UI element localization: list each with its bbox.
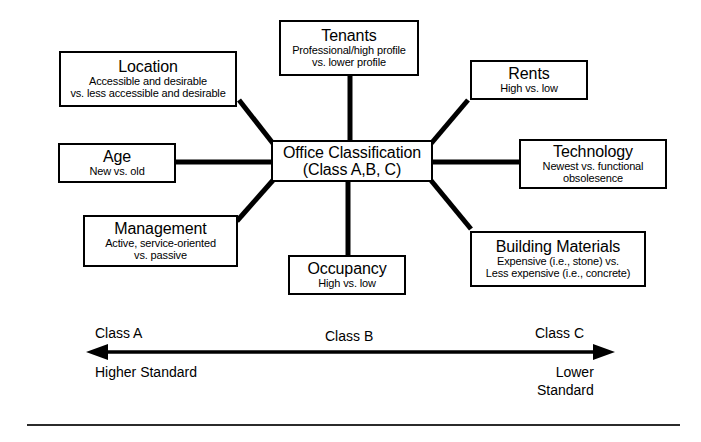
edge-center-materials bbox=[429, 178, 471, 229]
node-management-sub2: vs. passive bbox=[134, 250, 187, 262]
office-classification-diagram: Tenants Professional/high profile vs. lo… bbox=[0, 0, 701, 442]
node-location-title: Location bbox=[118, 58, 178, 75]
node-materials-title: Building Materials bbox=[496, 238, 620, 255]
node-office-classification[interactable]: Office Classification (Class A,B, C) bbox=[271, 140, 433, 182]
node-management-title: Management bbox=[114, 220, 206, 237]
edge-center-management bbox=[237, 178, 275, 221]
node-center-title: Office Classification bbox=[283, 144, 421, 161]
node-occupancy-title: Occupancy bbox=[307, 260, 386, 277]
node-materials-sub1: Expensive (i.e., stone) vs. bbox=[497, 256, 619, 268]
higher-standard-line1: Higher bbox=[95, 364, 136, 380]
scale-label-lower-standard: Lower Standard bbox=[537, 364, 594, 399]
scale-label-class-b: Class B bbox=[325, 328, 373, 346]
edge-center-rents bbox=[429, 100, 468, 146]
class-spectrum: Class A Class B Class C Higher Standard … bbox=[0, 325, 701, 415]
node-location-sub1: Accessible and desirable bbox=[89, 76, 207, 88]
node-tenants-sub2: vs. lower profile bbox=[312, 57, 386, 69]
higher-standard-line2: Standard bbox=[140, 364, 197, 380]
scale-label-class-c: Class C bbox=[535, 325, 584, 343]
node-age-sub1: New vs. old bbox=[89, 166, 144, 178]
node-technology-sub2: obsolesence bbox=[563, 173, 623, 185]
node-management-sub1: Active, service-oriented bbox=[105, 238, 216, 250]
node-occupancy[interactable]: Occupancy High vs. low bbox=[288, 255, 406, 295]
node-materials-sub2: Less expensive (i.e., concrete) bbox=[486, 268, 631, 280]
node-rents-title: Rents bbox=[508, 65, 549, 82]
node-tenants-title: Tenants bbox=[321, 27, 376, 44]
node-location-sub2: vs. less accessible and desirable bbox=[70, 88, 225, 100]
node-technology-sub1: Newest vs. functional bbox=[543, 161, 644, 173]
node-rents[interactable]: Rents High vs. low bbox=[470, 60, 588, 100]
scale-label-class-a: Class A bbox=[95, 325, 142, 343]
node-management[interactable]: Management Active, service-oriented vs. … bbox=[83, 215, 238, 267]
node-center-sub1: (Class A,B, C) bbox=[303, 161, 401, 178]
node-building-materials[interactable]: Building Materials Expensive (i.e., ston… bbox=[470, 231, 646, 287]
node-tenants-sub1: Professional/high profile bbox=[292, 45, 406, 57]
lower-standard-line1: Lower bbox=[537, 364, 594, 382]
bottom-divider bbox=[27, 424, 680, 426]
node-occupancy-sub1: High vs. low bbox=[318, 278, 376, 290]
node-age-title: Age bbox=[103, 148, 131, 165]
scale-label-higher-standard: Higher Standard bbox=[95, 364, 197, 382]
edge-center-location bbox=[239, 100, 275, 146]
node-age[interactable]: Age New vs. old bbox=[58, 143, 176, 183]
node-technology-title: Technology bbox=[553, 143, 633, 160]
node-rents-sub1: High vs. low bbox=[500, 83, 558, 95]
node-tenants[interactable]: Tenants Professional/high profile vs. lo… bbox=[279, 20, 419, 76]
node-technology[interactable]: Technology Newest vs. functional obsoles… bbox=[519, 139, 667, 189]
lower-standard-line2: Standard bbox=[537, 382, 594, 400]
node-location[interactable]: Location Accessible and desirable vs. le… bbox=[59, 51, 237, 107]
